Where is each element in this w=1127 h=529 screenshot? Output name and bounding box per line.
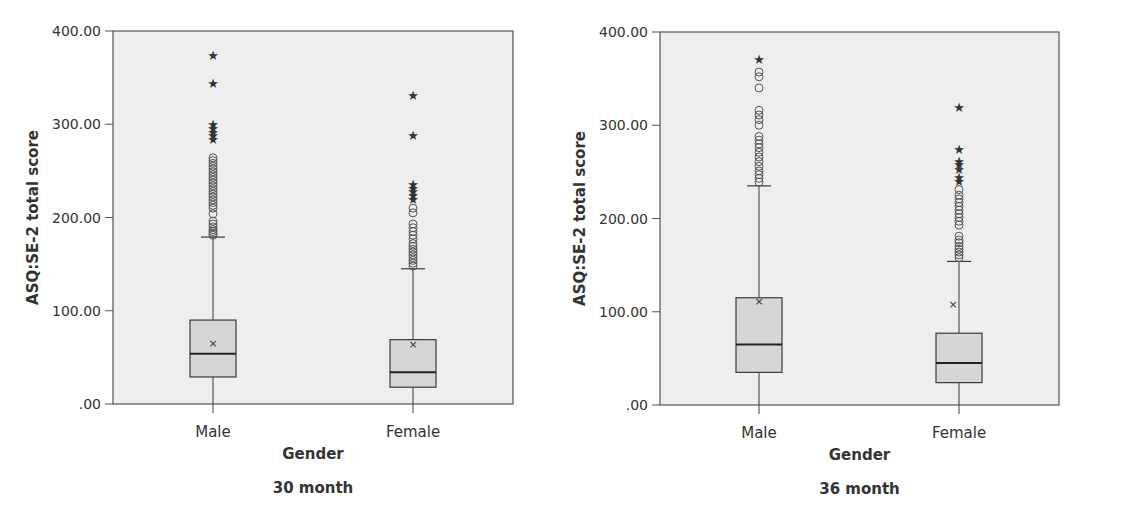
outlier-star: ★ xyxy=(753,52,765,67)
y-tick-label: .00 xyxy=(79,396,101,412)
outlier-star: ★ xyxy=(407,88,419,103)
y-tick-label: 200.00 xyxy=(599,211,648,227)
mean-marker: × xyxy=(754,295,763,308)
x-tick-label-male: Male xyxy=(741,424,777,442)
x-tick-label-male: Male xyxy=(195,423,231,441)
mean-marker: × xyxy=(408,338,417,351)
chart-30-month: .00100.00200.00300.00400.00ASQ:SE-2 tota… xyxy=(0,0,563,529)
outlier-star: ★ xyxy=(207,76,219,91)
panel-title: 30 month xyxy=(273,479,354,497)
outlier-star: ★ xyxy=(953,100,965,115)
boxplot-36-month: .00100.00200.00300.00400.00ASQ:SE-2 tota… xyxy=(560,0,1127,529)
y-axis-label: ASQ:SE-2 total score xyxy=(24,130,42,305)
y-axis-label: ASQ:SE-2 total score xyxy=(571,131,589,306)
y-tick-label: 100.00 xyxy=(52,303,101,319)
y-tick-label: 300.00 xyxy=(599,117,648,133)
boxplot-30-month: .00100.00200.00300.00400.00ASQ:SE-2 tota… xyxy=(0,0,563,529)
outlier-star: ★ xyxy=(207,48,219,63)
y-tick-label: 100.00 xyxy=(599,304,648,320)
outlier-star: ★ xyxy=(407,128,419,143)
outlier-star: ★ xyxy=(407,177,419,192)
x-tick-label-female: Female xyxy=(386,423,440,441)
y-tick-label: 400.00 xyxy=(52,23,101,39)
outlier-star: ★ xyxy=(207,117,219,132)
mean-marker: × xyxy=(208,337,217,350)
mean-marker: × xyxy=(948,298,957,311)
y-tick-label: 400.00 xyxy=(599,24,648,40)
y-tick-label: 200.00 xyxy=(52,210,101,226)
x-axis-label: Gender xyxy=(282,445,344,463)
y-tick-label: 300.00 xyxy=(52,116,101,132)
y-tick-label: .00 xyxy=(626,397,648,413)
iqr-box xyxy=(936,333,982,382)
plot-area xyxy=(660,32,1059,405)
outlier-star: ★ xyxy=(953,142,965,157)
chart-36-month: .00100.00200.00300.00400.00ASQ:SE-2 tota… xyxy=(560,0,1123,529)
x-axis-label: Gender xyxy=(829,446,891,464)
panel-title: 36 month xyxy=(819,480,900,498)
plot-area xyxy=(113,31,513,404)
iqr-box xyxy=(736,298,782,373)
x-tick-label-female: Female xyxy=(932,424,986,442)
